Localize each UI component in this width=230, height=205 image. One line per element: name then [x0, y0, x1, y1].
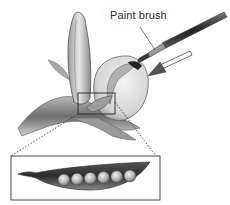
- label-leader-line: [140, 27, 155, 50]
- pea: [124, 170, 136, 182]
- pea: [98, 172, 110, 184]
- paint-brush-label: Paint brush: [110, 9, 167, 21]
- direction-arrow: [148, 51, 192, 76]
- pea: [71, 173, 83, 185]
- pollination-illustration: Paint brush: [0, 0, 230, 205]
- flower-keel-petal: [68, 12, 91, 104]
- illustration-canvas: [0, 0, 230, 205]
- pea: [111, 171, 123, 183]
- pea: [84, 172, 96, 184]
- flower-standard-petal: [94, 56, 149, 120]
- pea: [58, 174, 70, 186]
